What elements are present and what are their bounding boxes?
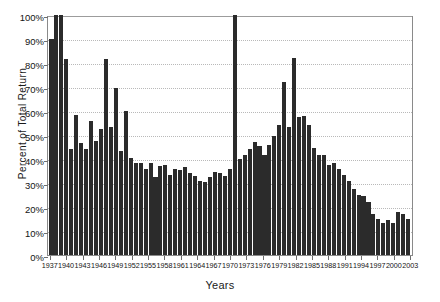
- x-tick-mark: [148, 256, 149, 260]
- bar: [223, 176, 227, 255]
- bar: [287, 127, 291, 255]
- bar: [386, 220, 390, 255]
- bar: [144, 169, 148, 255]
- bar: [203, 182, 207, 255]
- x-tick-mark: [66, 256, 67, 260]
- bar: [391, 223, 395, 255]
- bar: [366, 202, 370, 255]
- y-tick-label: 30%: [4, 180, 44, 191]
- x-tick-mark: [328, 256, 329, 260]
- x-tick-mark: [263, 256, 264, 260]
- bar: [168, 175, 172, 255]
- bar: [124, 111, 128, 255]
- bar: [302, 116, 306, 255]
- x-tick-mark: [181, 256, 182, 260]
- x-tick-label: 1940: [58, 261, 74, 270]
- bar: [342, 175, 346, 255]
- bar: [312, 148, 316, 255]
- x-tick-mark: [197, 256, 198, 260]
- x-tick-label: 1997: [369, 261, 385, 270]
- bar: [406, 219, 410, 255]
- bar: [357, 195, 361, 255]
- bar: [158, 166, 162, 255]
- bar: [208, 177, 212, 255]
- x-tick-label: 2003: [402, 261, 418, 270]
- x-tick-label: 1979: [271, 261, 287, 270]
- y-tick-mark: [44, 233, 48, 234]
- bar: [84, 149, 88, 255]
- bar: [327, 165, 331, 255]
- x-tick-label: 2000: [386, 261, 402, 270]
- x-tick-mark: [164, 256, 165, 260]
- bar: [134, 163, 138, 255]
- y-tick-mark: [44, 185, 48, 186]
- bar: [396, 212, 400, 255]
- x-tick-mark: [115, 256, 116, 260]
- x-tick-label: 1943: [75, 261, 91, 270]
- y-tick-mark: [44, 137, 48, 138]
- y-tick-mark: [44, 113, 48, 114]
- bar: [381, 223, 385, 255]
- bar: [74, 115, 78, 255]
- y-tick-label: 80%: [4, 60, 44, 71]
- x-axis-title: Years: [0, 279, 440, 291]
- bar: [297, 117, 301, 255]
- x-tick-label: 1973: [238, 261, 254, 270]
- y-tick-mark: [44, 65, 48, 66]
- y-tick-mark: [44, 209, 48, 210]
- y-tick-mark: [44, 17, 48, 18]
- bar-series: [48, 17, 412, 255]
- bar: [218, 173, 222, 255]
- x-tick-label: 1988: [320, 261, 336, 270]
- bar: [94, 141, 98, 255]
- bar: [292, 58, 296, 255]
- plot-area: 100%90%80%70%60%50%40%30%20%10%0%: [47, 16, 413, 256]
- bar: [188, 173, 192, 255]
- bar: [163, 165, 167, 255]
- bar: [139, 163, 143, 255]
- x-tick-mark: [361, 256, 362, 260]
- bar: [89, 121, 93, 255]
- y-tick-label: 100%: [4, 12, 44, 23]
- bar: [248, 149, 252, 255]
- bar: [183, 167, 187, 255]
- bar: [317, 155, 321, 255]
- bar: [238, 159, 242, 255]
- x-tick-label: 1946: [91, 261, 107, 270]
- x-tick-label: 1952: [124, 261, 140, 270]
- x-axis-ticks: [47, 256, 413, 260]
- x-tick-mark: [50, 256, 51, 260]
- x-tick-mark: [99, 256, 100, 260]
- bar: [64, 59, 68, 255]
- x-tick-label: 1976: [255, 261, 271, 270]
- y-tick-mark: [44, 41, 48, 42]
- bar: [178, 170, 182, 255]
- bar: [337, 169, 341, 255]
- bar: [69, 149, 73, 255]
- bar: [371, 214, 375, 255]
- bar: [376, 219, 380, 255]
- y-tick-label: 10%: [4, 228, 44, 239]
- bar: [119, 151, 123, 255]
- x-tick-mark: [214, 256, 215, 260]
- bar: [267, 145, 271, 255]
- x-tick-label: 1991: [337, 261, 353, 270]
- y-tick-mark: [44, 89, 48, 90]
- y-tick-mark: [44, 161, 48, 162]
- bar: [193, 176, 197, 255]
- x-tick-label: 1967: [206, 261, 222, 270]
- x-tick-label: 1982: [288, 261, 304, 270]
- x-tick-mark: [230, 256, 231, 260]
- bar: [277, 125, 281, 255]
- bar: [262, 155, 266, 255]
- bar: [352, 189, 356, 255]
- x-tick-mark: [377, 256, 378, 260]
- bar: [272, 136, 276, 255]
- y-tick-label: 60%: [4, 108, 44, 119]
- bar: [173, 169, 177, 255]
- x-tick-mark: [410, 256, 411, 260]
- x-tick-mark: [312, 256, 313, 260]
- x-tick-mark: [83, 256, 84, 260]
- bar: [79, 143, 83, 255]
- x-tick-mark: [296, 256, 297, 260]
